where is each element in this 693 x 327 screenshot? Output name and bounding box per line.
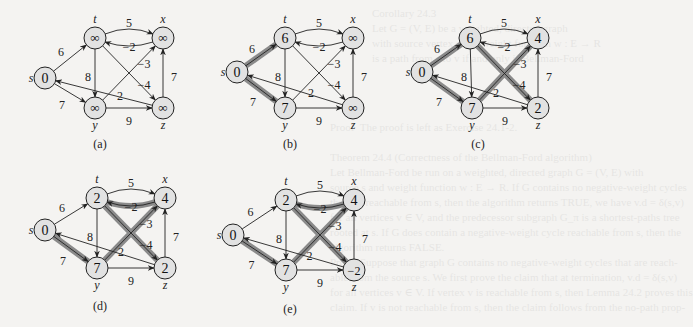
node-distance-y: 7 <box>469 101 476 116</box>
node-label-z: z <box>160 118 166 132</box>
node-label-s: s <box>406 65 411 79</box>
node-label-x: x <box>161 172 168 186</box>
node-label-y: y <box>91 118 98 132</box>
node-distance-x: 4 <box>351 193 358 208</box>
edge-weight-s-y: 7 <box>249 258 255 272</box>
node-label-x: x <box>534 12 541 26</box>
node-label-z: z <box>162 278 168 292</box>
node-distance-s: 0 <box>230 228 237 243</box>
node-distance-x: ∞ <box>158 30 167 45</box>
node-distance-t: 2 <box>283 193 290 208</box>
node-distance-x: ∞ <box>348 30 357 45</box>
node-label-z: z <box>350 118 356 132</box>
edge-weight-s-t: 6 <box>248 205 254 219</box>
edge-weight-t-x: 5 <box>316 16 322 30</box>
edge-weight-t-x: 5 <box>126 16 132 30</box>
graph-panel-d: 675−28−4−39720s2t4x7y2z(d) <box>29 172 179 313</box>
edge-weight-y-z: 9 <box>316 114 322 128</box>
node-distance-x: 4 <box>535 31 542 46</box>
node-distance-z: ∞ <box>158 100 167 115</box>
panel-caption: (e) <box>283 302 296 316</box>
node-label-x: x <box>350 174 357 188</box>
node-distance-z: ∞ <box>348 100 357 115</box>
graph-panel-a: 675−28−4−39720s∞t∞x∞y∞z(a) <box>29 12 177 151</box>
edge-weight-t-y: 8 <box>276 232 282 246</box>
node-label-y: y <box>93 278 100 292</box>
node-distance-s: 0 <box>42 71 49 86</box>
edge-weight-t-y: 8 <box>275 70 281 84</box>
edge-weight-s-t: 6 <box>58 45 64 59</box>
edge-weight-t-y: 8 <box>461 70 467 84</box>
edge-weight-z-x: 7 <box>361 70 367 84</box>
edge-weight-y-z: 9 <box>502 114 508 128</box>
edge-weight-s-y: 7 <box>436 95 442 109</box>
graph-panel-c: 675−28−4−39720s6t4x7y2z(c) <box>406 12 552 151</box>
node-label-x: x <box>159 12 166 26</box>
node-distance-y: ∞ <box>90 100 99 115</box>
edge-weight-s-t: 6 <box>434 42 440 56</box>
node-label-z: z <box>351 280 357 294</box>
node-label-t: t <box>93 12 97 26</box>
node-distance-z: −2 <box>348 264 361 278</box>
edge-weight-x-t: −2 <box>123 40 136 54</box>
node-distance-s: 0 <box>234 65 241 80</box>
node-label-s: s <box>221 65 226 79</box>
edge-weight-y-x: −3 <box>514 57 527 71</box>
graph-panel-e: 675−28−4−39720s2t4x7y−2z(e) <box>217 174 368 316</box>
edge-weight-t-x: 5 <box>501 16 507 30</box>
edge-weight-z-x: 7 <box>171 70 177 84</box>
panel-caption: (b) <box>283 137 297 151</box>
node-distance-s: 0 <box>419 65 426 80</box>
node-label-t: t <box>284 174 288 188</box>
panel-caption: (d) <box>93 299 107 313</box>
edge-weight-y-x: −3 <box>328 57 341 71</box>
edge-weight-y-z: 9 <box>126 114 132 128</box>
node-distance-y: 7 <box>94 261 101 276</box>
edge-weight-z-x: 7 <box>546 70 552 84</box>
edge-weight-y-z: 9 <box>317 276 323 290</box>
node-label-s: s <box>217 228 222 242</box>
node-distance-t: 6 <box>467 31 474 46</box>
edge-weight-x-t: −2 <box>314 202 327 216</box>
node-label-y: y <box>282 280 289 294</box>
node-label-t: t <box>468 12 472 26</box>
edge-weight-t-y: 8 <box>87 230 93 244</box>
edge-weight-x-t: −2 <box>125 200 138 214</box>
edge-weight-s-y: 7 <box>59 98 65 112</box>
edge-t-y <box>470 49 471 97</box>
node-distance-t: ∞ <box>90 30 99 45</box>
node-label-s: s <box>29 223 34 237</box>
edge-weight-s-t: 6 <box>249 42 255 56</box>
panel-caption: (a) <box>93 137 106 151</box>
edge-weight-y-x: −3 <box>138 57 151 71</box>
edge-weight-t-z: −4 <box>329 240 342 254</box>
edge-weight-s-y: 7 <box>60 254 66 268</box>
edge-weight-y-z: 9 <box>128 274 134 288</box>
node-distance-t: 6 <box>282 31 289 46</box>
edge-weight-t-x: 5 <box>317 178 323 192</box>
node-label-z: z <box>535 118 541 132</box>
node-distance-x: 4 <box>162 191 169 206</box>
edge-weight-t-z: −4 <box>513 78 526 92</box>
edge-weight-s-y: 7 <box>250 95 256 109</box>
graph-panel-b: 675−28−4−39720s6t∞x7y∞z(b) <box>221 12 367 151</box>
edge-weight-s-t: 6 <box>59 201 65 215</box>
edge-weight-z-s: 2 <box>118 245 124 259</box>
edge-weight-t-z: −4 <box>328 78 341 92</box>
node-distance-s: 0 <box>42 223 49 238</box>
edge-weight-t-x: 5 <box>128 176 134 190</box>
edge-weight-y-x: −3 <box>140 217 153 231</box>
edge-weight-x-t: −2 <box>498 40 511 54</box>
edge-weight-y-x: −3 <box>329 219 342 233</box>
edge-weight-z-x: 7 <box>362 232 368 246</box>
node-label-t: t <box>95 172 99 186</box>
edge-s-y <box>242 241 277 264</box>
node-label-s: s <box>29 71 34 85</box>
node-distance-y: 7 <box>282 101 289 116</box>
edge-weight-t-z: −4 <box>138 78 151 92</box>
edge-weight-t-z: −4 <box>140 238 153 252</box>
node-label-x: x <box>349 12 356 26</box>
node-distance-y: 7 <box>283 263 290 278</box>
edge-weight-x-t: −2 <box>313 40 326 54</box>
